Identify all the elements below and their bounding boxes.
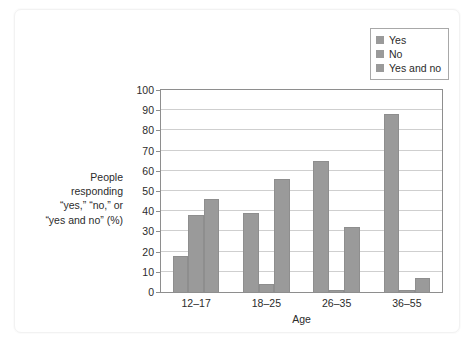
figure-card: Yes No Yes and no People responding “yes… — [14, 9, 460, 333]
bar — [329, 290, 345, 292]
y-axis-tick-labels: 0102030405060708090100 — [126, 89, 154, 293]
legend-label-no: No — [389, 49, 402, 60]
x-axis-tick-label: 18–25 — [252, 297, 281, 309]
bar — [173, 256, 189, 292]
y-axis-tick-label: 40 — [128, 205, 154, 217]
y-axis-tick-label: 10 — [128, 266, 154, 278]
bar — [274, 179, 290, 292]
legend-item-no: No — [376, 47, 441, 61]
plot-area — [160, 89, 443, 293]
bar — [259, 284, 275, 292]
legend-swatch-no — [376, 50, 384, 58]
legend-swatch-yes — [376, 36, 384, 44]
y-axis-title-line-3: “yes and no” (%) — [39, 213, 123, 227]
x-axis-tick-labels: 12–1718–2526–3536–55 — [160, 297, 443, 311]
bar — [204, 199, 220, 292]
y-axis-tick-label: 70 — [128, 145, 154, 157]
chart-legend: Yes No Yes and no — [370, 28, 449, 80]
y-axis-title-line-2: “yes,” “no,” or — [39, 198, 123, 212]
legend-swatch-yes-and-no — [376, 64, 384, 72]
x-axis-title: Age — [160, 313, 443, 325]
bars-layer — [161, 90, 442, 292]
bar — [384, 114, 400, 292]
y-axis-tick-label: 20 — [128, 246, 154, 258]
legend-item-yes: Yes — [376, 33, 441, 47]
bar — [243, 213, 259, 292]
bar — [188, 215, 204, 292]
x-axis-tick-label: 36–55 — [392, 297, 421, 309]
bar — [399, 290, 415, 292]
x-axis-tick-label: 12–17 — [182, 297, 211, 309]
y-axis-tick-label: 80 — [128, 124, 154, 136]
y-axis-tick-label: 50 — [128, 185, 154, 197]
y-axis-tick-label: 30 — [128, 225, 154, 237]
y-axis-tick-label: 90 — [128, 104, 154, 116]
x-axis-tick-label: 26–35 — [322, 297, 351, 309]
y-axis-tick-label: 0 — [128, 286, 154, 298]
legend-label-yes: Yes — [389, 35, 406, 46]
legend-item-yes-and-no: Yes and no — [376, 61, 441, 75]
y-axis-title: People responding “yes,” “no,” or “yes a… — [39, 170, 123, 227]
y-axis-tick-label: 100 — [128, 84, 154, 96]
bar — [415, 278, 431, 292]
y-axis-tick-label: 60 — [128, 165, 154, 177]
bar — [344, 227, 360, 292]
y-axis-title-line-1: People responding — [39, 170, 123, 198]
bar — [313, 161, 329, 292]
legend-label-yes-and-no: Yes and no — [389, 63, 441, 74]
